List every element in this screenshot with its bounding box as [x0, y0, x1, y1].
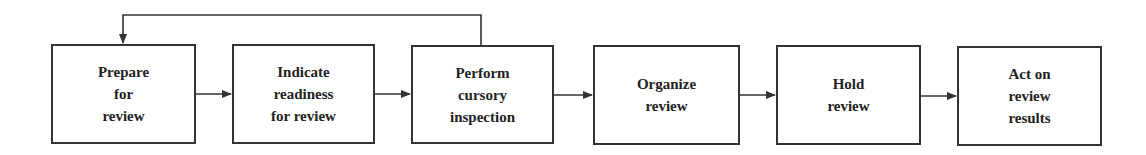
step-act-on-review-results: Act on review results	[957, 46, 1102, 146]
step-indicate-readiness: Indicate readiness for review	[232, 44, 375, 144]
step-prepare-for-review: Prepare for review	[51, 44, 196, 144]
step-organize-review: Organize review	[593, 45, 740, 145]
feedback-loop-arrow	[123, 15, 481, 45]
step-perform-cursory-inspection: Perform cursory inspection	[411, 45, 554, 144]
step-hold-review: Hold review	[776, 45, 921, 145]
